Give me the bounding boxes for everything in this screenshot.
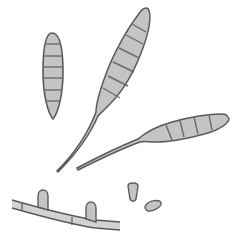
conidium-beaked-large bbox=[57, 8, 150, 172]
hypha-with-conidiophores bbox=[12, 190, 120, 230]
spore-illustration bbox=[0, 0, 244, 240]
illustration-canvas bbox=[0, 0, 244, 240]
conidium-septate-upright bbox=[43, 33, 63, 119]
conidium-beaked-horizontal bbox=[77, 114, 229, 170]
young-conidium-small-1 bbox=[128, 183, 138, 201]
young-conidium-small-2 bbox=[145, 201, 161, 212]
